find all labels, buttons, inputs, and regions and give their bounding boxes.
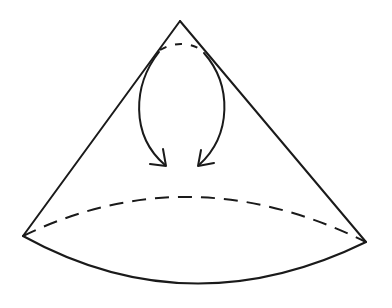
- apex-small-arc: [160, 44, 202, 50]
- base-front-arc: [23, 236, 366, 284]
- cone-diagram-svg: [0, 0, 392, 308]
- cone-diagram: [0, 0, 392, 308]
- cone-right-side: [180, 21, 366, 242]
- base-back-arc: [23, 197, 366, 242]
- left-curved-arrow: [139, 52, 165, 165]
- cone-left-side: [23, 21, 180, 236]
